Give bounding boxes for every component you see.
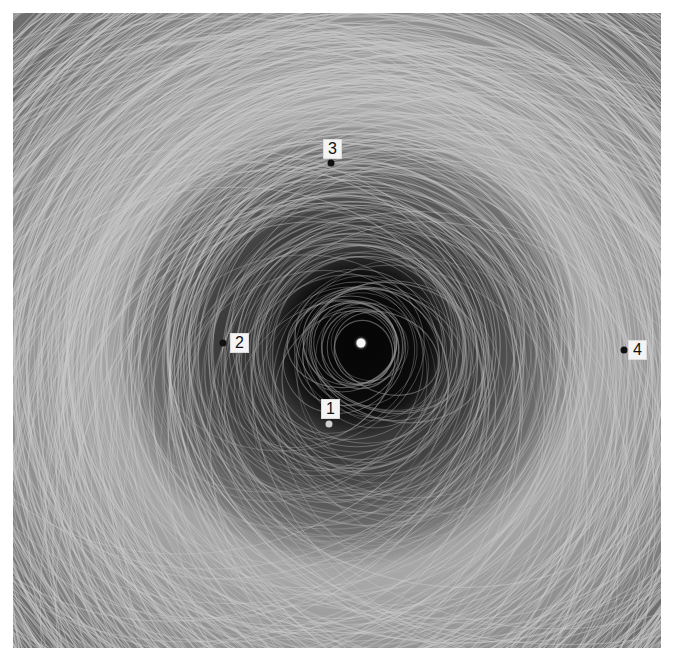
marker-1-dot — [326, 421, 333, 428]
marker-1-label: 1 — [321, 399, 340, 419]
stellar-orbit-traces — [13, 13, 661, 648]
marker-2-dot — [220, 340, 227, 347]
orbit-simulation-image: 1 2 3 4 — [13, 13, 661, 648]
central-source — [357, 339, 366, 348]
marker-4-dot — [621, 347, 628, 354]
marker-3-label: 3 — [323, 139, 342, 159]
marker-2-label: 2 — [230, 333, 249, 353]
marker-4-label: 4 — [628, 340, 647, 360]
marker-3-dot — [328, 160, 335, 167]
